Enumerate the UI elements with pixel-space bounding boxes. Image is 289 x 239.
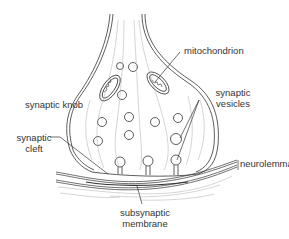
subsynaptic-leader: [137, 186, 142, 204]
label-synaptic-vesicles-line1: synaptic: [211, 87, 255, 98]
vesicles-leader-1: [180, 100, 199, 138]
label-neurolemma: neurolemma: [240, 158, 289, 169]
mitochondrion-leader: [155, 52, 180, 82]
cleft-leader: [50, 137, 108, 174]
label-subsynaptic-membrane-line1: subsynaptic: [115, 207, 175, 218]
knob-wall-left-inner: [70, 14, 113, 170]
fusing-vesicles: [115, 155, 181, 175]
knob-wall-right-inner: [142, 14, 214, 172]
label-synaptic-cleft-line1: synaptic: [14, 132, 54, 143]
label-synaptic-knob: synaptic knob: [25, 99, 83, 110]
synaptic-vesicles: [94, 63, 183, 146]
label-synaptic-cleft-line2: cleft: [14, 143, 54, 154]
mitochondrion-right: [143, 68, 173, 98]
label-synaptic-vesicles-line2: vesicles: [211, 98, 255, 109]
vesicles-leader-2: [177, 100, 199, 160]
label-subsynaptic-membrane-line2: membrane: [115, 218, 175, 229]
synapse-diagram: [0, 0, 289, 239]
label-mitochondrion: mitochondrion: [184, 45, 244, 56]
